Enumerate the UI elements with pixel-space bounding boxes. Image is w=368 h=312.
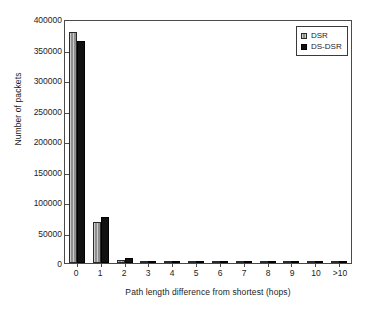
bar: [331, 261, 339, 263]
bar: [93, 222, 101, 263]
x-axis-tick-mark: [268, 263, 269, 267]
bar: [283, 261, 291, 263]
x-axis-tick-mark: [315, 263, 316, 267]
bar: [188, 261, 196, 263]
y-axis-tick-label: 250000: [8, 108, 62, 116]
bar-group: [256, 21, 280, 263]
x-axis-tick-label: 7: [232, 268, 256, 278]
y-axis-tick-mark: [65, 174, 69, 175]
bar-group: [113, 21, 137, 263]
bar: [140, 261, 148, 263]
x-axis-tick-mark: [339, 263, 340, 267]
bar: [236, 261, 244, 263]
y-axis-tick-label: 100000: [8, 199, 62, 207]
x-axis-title: Path length difference from shortest (ho…: [64, 287, 352, 297]
y-axis-tick-label: 300000: [8, 77, 62, 85]
x-axis-tick-label: 0: [64, 268, 88, 278]
x-axis-tick-label: 4: [160, 268, 184, 278]
x-axis-tick-label: 5: [184, 268, 208, 278]
x-axis-tick-label: 1: [88, 268, 112, 278]
bar-group: [65, 21, 89, 263]
bar-group: [89, 21, 113, 263]
x-axis-tick-label: 10: [304, 268, 328, 278]
x-axis-tick-mark: [244, 263, 245, 267]
x-axis-tick-label: >10: [328, 268, 352, 278]
bar: [212, 261, 220, 263]
y-axis-tick-label: 200000: [8, 138, 62, 146]
y-axis-tick-label: 50000: [8, 230, 62, 238]
y-axis-tick-label: 400000: [8, 16, 62, 24]
bar: [339, 261, 347, 263]
bar-group: [160, 21, 184, 263]
bar-groups: [65, 21, 351, 263]
bar-chart-figure: Number of packets 0500001000001500002000…: [0, 0, 368, 312]
bar: [291, 261, 299, 263]
x-axis-tick-label: 3: [136, 268, 160, 278]
bar: [220, 261, 228, 263]
bar-group: [136, 21, 160, 263]
bar: [307, 261, 315, 263]
x-axis-tick-label: 6: [208, 268, 232, 278]
x-axis-tick-mark: [291, 263, 292, 267]
bar-group: [208, 21, 232, 263]
y-axis-tick-mark: [65, 235, 69, 236]
bar-group: [184, 21, 208, 263]
legend-swatch-icon: [301, 44, 307, 50]
x-axis-tick-label: 2: [112, 268, 136, 278]
bar-group: [232, 21, 256, 263]
legend-item: DSR: [301, 30, 342, 41]
x-axis-tick-mark: [172, 263, 173, 267]
x-axis-tick-mark: [125, 263, 126, 267]
x-axis-tick-labels: 012345678910>10: [64, 268, 352, 278]
x-axis-tick-mark: [196, 263, 197, 267]
x-axis-tick-label: 9: [280, 268, 304, 278]
bar: [77, 41, 85, 263]
chart-legend: DSRDS-DSR: [296, 26, 348, 56]
bar: [117, 260, 125, 263]
bar-group: [327, 21, 351, 263]
y-axis-tick-mark: [65, 204, 69, 205]
y-axis-tick-mark: [65, 82, 69, 83]
legend-label: DS-DSR: [311, 42, 342, 51]
y-axis-tick-labels: 0500001000001500002000002500003000003500…: [8, 20, 62, 264]
x-axis-tick-mark: [77, 263, 78, 267]
bar: [69, 32, 77, 263]
bar: [260, 261, 268, 263]
x-axis-tick-mark: [148, 263, 149, 267]
legend-item: DS-DSR: [301, 41, 342, 52]
bar: [196, 261, 204, 263]
plot-area: [64, 20, 352, 264]
bar: [164, 261, 172, 263]
bar: [244, 261, 252, 263]
bar: [125, 258, 133, 263]
bar-group: [279, 21, 303, 263]
x-axis-tick-label: 8: [256, 268, 280, 278]
bar: [101, 217, 109, 263]
bar: [268, 261, 276, 263]
x-axis-tick-mark: [101, 263, 102, 267]
legend-label: DSR: [311, 31, 328, 40]
y-axis-tick-mark: [65, 113, 69, 114]
bar: [148, 261, 156, 263]
bar: [315, 261, 323, 263]
x-axis-tick-mark: [220, 263, 221, 267]
y-axis-tick-label: 350000: [8, 47, 62, 55]
legend-swatch-icon: [301, 33, 307, 39]
y-axis-tick-mark: [65, 143, 69, 144]
bar-group: [303, 21, 327, 263]
y-axis-tick-label: 0: [8, 260, 62, 268]
y-axis-tick-label: 150000: [8, 169, 62, 177]
y-axis-tick-mark: [65, 52, 69, 53]
bar: [172, 261, 180, 263]
